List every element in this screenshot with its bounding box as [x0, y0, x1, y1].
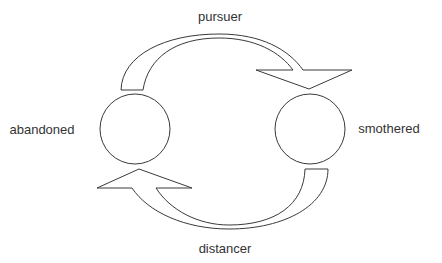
smothered-node [275, 94, 345, 164]
smothered-label: smothered [358, 121, 419, 136]
distancer-label: distancer [199, 241, 252, 256]
abandoned-node [100, 94, 170, 164]
pursuer-arrow [121, 34, 352, 90]
distancer-arrow [97, 169, 328, 229]
abandoned-label: abandoned [9, 122, 74, 137]
pursuer-label: pursuer [198, 9, 242, 24]
